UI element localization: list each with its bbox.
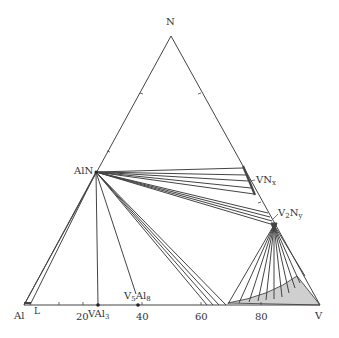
vertex-label-V: V <box>315 311 322 321</box>
tieline-AlN-V5Al8 <box>96 172 136 294</box>
liquid-boundary-1 <box>24 172 96 305</box>
AlN-point <box>95 171 98 174</box>
phase-label-V2Ny: V2Ny <box>278 208 302 220</box>
VAl3-base: VAl <box>88 308 105 319</box>
axis-tick-60: 60 <box>195 312 208 322</box>
VNx-base: VN <box>256 174 272 185</box>
VNx-sub: x <box>272 179 276 187</box>
V2Ny-sub2: y <box>298 212 302 220</box>
phase-label-VNx: VNx <box>256 175 276 187</box>
vertex-label-Al: Al <box>14 311 24 321</box>
axis-tick-20: 20 <box>76 312 89 322</box>
phase-label-VAl3: VAl3 <box>88 309 109 321</box>
axis-tick-40: 40 <box>136 312 149 322</box>
V5Al8-sub2: 8 <box>146 295 150 303</box>
V5Al8-mid: Al <box>136 290 146 301</box>
phase-label-L: L <box>34 307 40 316</box>
liquid-boundary-2 <box>30 172 96 305</box>
edge-ticks <box>59 93 261 305</box>
triangle-outline <box>24 36 320 305</box>
vertex-label-N: N <box>166 17 175 27</box>
ternary-phase-diagram <box>0 0 339 338</box>
phase-label-AlN: AlN <box>74 166 93 176</box>
axis-tick-80: 80 <box>255 312 268 322</box>
V5Al8-point <box>136 303 140 307</box>
VAl3-sub: 3 <box>105 313 109 321</box>
phase-label-V5Al8: V5Al8 <box>124 291 151 303</box>
VAl3-point <box>96 303 100 307</box>
tieline-AlN-VAl3 <box>96 172 98 305</box>
